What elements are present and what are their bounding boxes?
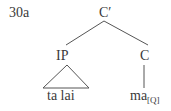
node-cprime: C′ [99,6,111,20]
branch-cprime-ip [66,21,104,45]
branch-cprime-c [104,21,148,45]
terminal-ma: ma[Q] [130,89,160,103]
ip-triangle [43,65,89,88]
example-number: 30a [9,6,29,20]
terminal-ma-subscript: [Q] [147,95,160,105]
node-c: C [140,49,149,63]
terminal-ta-lai: ta lai [47,89,75,103]
node-ip: IP [56,49,68,63]
terminal-ma-text: ma [130,88,147,103]
